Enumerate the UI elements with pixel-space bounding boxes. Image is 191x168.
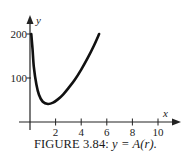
data-series-line (31, 34, 99, 104)
y-tick-label: 200 (11, 28, 28, 40)
y-axis-label: y (35, 14, 41, 26)
y-axis-arrow-icon (27, 15, 34, 24)
caption-prefix: FIGURE 3.84: (34, 137, 112, 151)
y-tick-label: 100 (11, 72, 28, 84)
figure-caption: FIGURE 3.84: y = A(r). (0, 137, 191, 152)
y-tick-labels: 100200 (11, 28, 28, 84)
caption-math: y = A(r). (112, 137, 157, 151)
x-axis-arrow-icon (172, 119, 181, 126)
x-axis-label: x (162, 107, 168, 119)
